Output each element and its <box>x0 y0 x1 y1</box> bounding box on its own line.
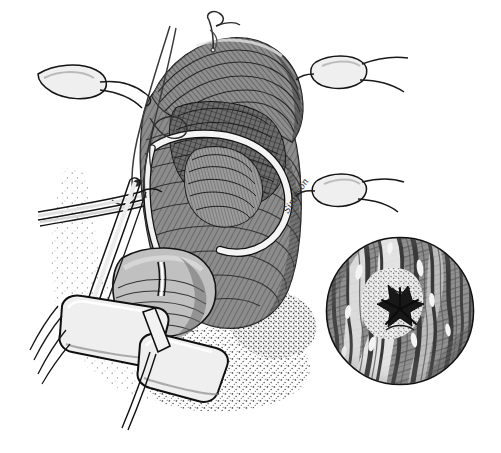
surgical-illustration-figure: Simpson <box>0 0 501 453</box>
illustration-canvas: Simpson <box>0 0 501 453</box>
